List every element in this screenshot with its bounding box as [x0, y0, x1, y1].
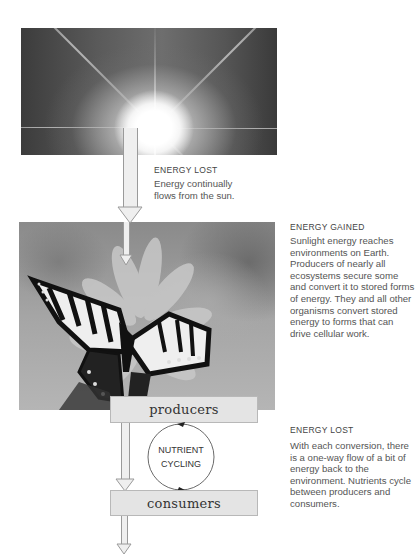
annotation-body: With each conversion, there is a one-way…	[290, 440, 415, 510]
cycle-label-line1: NUTRIENT	[143, 443, 219, 457]
butterfly-photo	[19, 222, 275, 410]
sun-ray	[154, 127, 277, 155]
consumers-outflow-arrow-head	[116, 543, 132, 555]
energy-flow-arrow-head	[117, 206, 143, 224]
annotation-energy-gained: ENERGY GAINED Sunlight energy reaches en…	[290, 222, 415, 339]
annotation-body: Energy continually flows from the sun.	[154, 178, 256, 201]
annotation-energy-lost-sun: ENERGY LOST Energy continually flows fro…	[154, 165, 274, 201]
cycle-label-line2: CYCLING	[143, 457, 219, 471]
annotation-heading: ENERGY LOST	[154, 165, 274, 175]
energy-input-arrow-shaft	[123, 222, 130, 256]
annotation-body: Sunlight energy reaches environments on …	[290, 235, 415, 339]
producers-to-consumers-arrow-shaft	[121, 423, 130, 481]
cycle-arrowhead-icon	[177, 422, 185, 427]
consumers-outflow-arrow-shaft	[121, 516, 128, 546]
annotation-heading: ENERGY LOST	[290, 425, 415, 435]
annotation-heading: ENERGY GAINED	[290, 222, 415, 232]
nutrient-cycling-label: NUTRIENT CYCLING	[143, 443, 219, 471]
butterfly-illustration	[19, 222, 275, 410]
energy-flow-arrow-shaft	[123, 128, 138, 208]
sun-ray	[155, 128, 277, 129]
producers-label: producers	[149, 402, 219, 417]
sun-photo	[21, 28, 277, 155]
consumers-box: consumers	[110, 490, 258, 516]
producers-box: producers	[110, 396, 258, 423]
energy-input-arrow-head	[119, 254, 133, 266]
consumers-label: consumers	[147, 496, 221, 511]
sun-ray	[154, 28, 277, 129]
sun-ray	[154, 28, 156, 155]
annotation-energy-lost-conversion: ENERGY LOST With each conversion, there …	[290, 425, 415, 510]
sun-ray	[21, 28, 156, 129]
